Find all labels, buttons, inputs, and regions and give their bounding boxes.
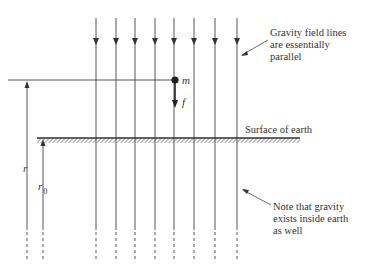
surface-label: Surface of earth <box>245 124 313 135</box>
r0-arrow <box>41 139 46 262</box>
arrowhead-icon <box>172 100 178 108</box>
r-label: r <box>23 162 28 174</box>
arrowhead-icon <box>132 38 138 45</box>
arrowhead-up-icon <box>25 81 30 88</box>
annotation-line: are essentially <box>270 39 331 50</box>
bottom-annotation: Note that gravity exists inside earth as… <box>273 201 351 236</box>
force-label: f <box>182 96 187 108</box>
annotation-line: Gravity field lines <box>270 27 346 38</box>
annotation-line: parallel <box>270 51 302 62</box>
r0-base: r <box>38 180 43 192</box>
arrowhead-icon <box>152 38 158 45</box>
annotation-line: as well <box>273 225 303 236</box>
arrowhead-icon <box>171 38 177 45</box>
annotation-line: exists inside earth <box>273 213 349 224</box>
arrowhead-icon <box>113 38 119 45</box>
arrowhead-icon <box>191 38 197 45</box>
gravity-field-diagram: m f r r0 Surface of earth Gravity field … <box>0 0 371 275</box>
arrowhead-icon <box>234 38 240 45</box>
earth-surface <box>37 138 300 143</box>
pointer-arrowhead-icon <box>241 51 248 56</box>
force-arrow <box>172 83 178 108</box>
arrowhead-icon <box>93 38 99 45</box>
top-annotation: Gravity field lines are essentially para… <box>270 27 349 62</box>
mass-dot <box>171 76 178 83</box>
pointer-arrowhead-icon <box>242 189 249 194</box>
mass-label: m <box>182 74 190 86</box>
annotation-line: Note that gravity <box>273 201 345 212</box>
r0-subscript: 0 <box>43 187 47 196</box>
arrowhead-icon <box>212 38 218 45</box>
